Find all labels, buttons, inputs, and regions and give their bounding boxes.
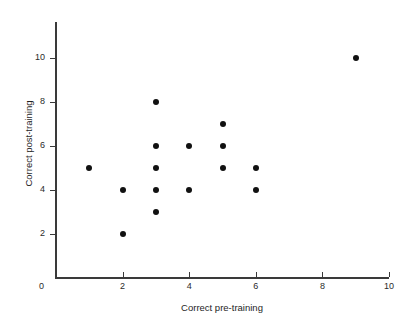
x-tick-label: 2 [113,281,133,291]
data-point [86,165,92,171]
x-tick-label: 8 [312,281,332,291]
x-tick-mark [389,272,390,277]
data-point [153,165,159,171]
x-tick-label: 10 [379,281,399,291]
data-point [220,165,226,171]
data-point [186,143,192,149]
y-tick-mark [50,58,55,59]
data-point [153,143,159,149]
data-point [186,187,192,193]
y-axis-line [55,22,57,279]
y-axis-title: Correct post-training [23,44,34,244]
x-axis-line [55,277,389,279]
data-point [253,165,259,171]
data-point [120,231,126,237]
plot-data-area [0,0,411,331]
data-point [353,55,359,61]
x-tick-mark [322,272,323,277]
data-point [220,143,226,149]
x-axis-title: Correct pre-training [55,302,389,313]
x-tick-mark [189,272,190,277]
data-point [153,209,159,215]
y-tick-mark [50,146,55,147]
x-tick-mark [123,272,124,277]
data-point [153,187,159,193]
scatter-plot-figure: 246810 246810 0 Correct pre-training Cor… [0,0,411,331]
data-point [153,99,159,105]
x-tick-label: 4 [179,281,199,291]
data-point [220,121,226,127]
x-tick-mark [256,272,257,277]
y-tick-mark [50,234,55,235]
y-tick-mark [50,190,55,191]
origin-tick-label: 0 [39,281,44,291]
data-point [253,187,259,193]
x-tick-label: 6 [246,281,266,291]
y-tick-mark [50,102,55,103]
data-point [120,187,126,193]
